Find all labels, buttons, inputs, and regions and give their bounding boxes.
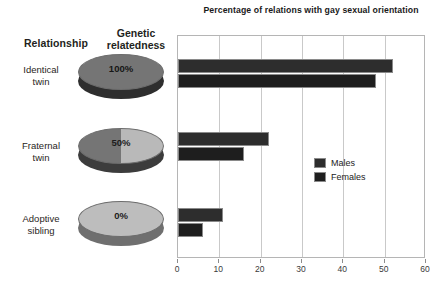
row-label-adoptive-sibling: Adoptive sibling [6,213,76,236]
bar-adoptive-sibling-males [178,208,223,222]
legend-label-males: Males [331,158,355,168]
row-label-line2: twin [6,76,76,88]
x-axis-tick [342,259,343,263]
x-axis-tick [425,259,426,263]
row-label-line1: Fraternal [6,140,76,152]
x-axis-tick [301,259,302,263]
x-axis-tick-label: 30 [286,264,316,274]
x-axis-tick [218,259,219,263]
x-axis-tick [384,259,385,263]
legend-item-males: Males [314,158,366,168]
legend-swatch-females [314,172,326,182]
x-axis-tick-label: 50 [369,264,399,274]
pie-value-label: 50% [78,137,164,148]
column-header-relationship: Relationship [10,37,102,49]
pie-chart-adoptive-sibling: 0% [78,201,164,247]
chart-title: Percentage of relations with gay sexual … [186,5,436,15]
legend-swatch-males [314,158,326,168]
bar-fraternal-twin-males [178,132,269,146]
bar-fraternal-twin-females [178,147,244,161]
pie-chart-fraternal-twin: 50% [78,128,164,174]
legend-item-females: Females [314,172,366,182]
row-label-line1: Adoptive [6,213,76,225]
bar-adoptive-sibling-females [178,223,203,237]
x-axis-tick-label: 40 [327,264,357,274]
pie-value-label: 0% [78,210,164,221]
x-axis-tick [260,259,261,263]
chart-legend: Males Females [314,158,366,186]
column-header-genetic-line2: relatedness [92,39,180,51]
row-label-line2: sibling [6,225,76,237]
bar-identical-twin-females [178,74,376,88]
chart-figure: Relationship Genetic relatedness Identic… [0,0,439,288]
row-label-line2: twin [6,152,76,164]
column-header-genetic-relatedness: Genetic relatedness [92,27,180,51]
x-axis-tick-label: 60 [410,264,439,274]
legend-label-females: Females [331,172,366,182]
x-axis-tick-label: 10 [203,264,233,274]
bar-identical-twin-males [178,59,393,73]
row-label-fraternal-twin: Fraternal twin [6,140,76,163]
column-header-genetic-line1: Genetic [92,27,180,39]
pie-value-label: 100% [78,63,164,74]
row-label-line1: Identical [6,64,76,76]
row-label-identical-twin: Identical twin [6,64,76,87]
x-axis-tick-label: 20 [245,264,275,274]
pie-chart-identical-twin: 100% [78,54,164,100]
plot-area [177,35,425,258]
x-axis-tick-label: 0 [162,264,192,274]
x-axis-tick [177,259,178,263]
